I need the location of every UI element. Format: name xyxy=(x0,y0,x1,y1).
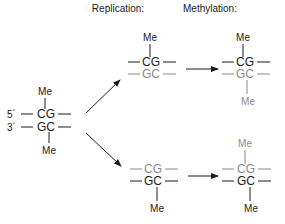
parent-top-strand: CG xyxy=(37,107,55,121)
dna-methylation-diagram: Replication: Methylation: Me 5´ 3´ CG GC… xyxy=(0,0,285,224)
methyl-bottom: Me xyxy=(241,96,255,107)
bottom-strand: GC xyxy=(144,174,162,188)
parent-methyl-bottom: Me xyxy=(42,145,56,156)
upper-methylated-duplex: Me CG GC Me xyxy=(222,32,270,107)
lower-methylated-duplex: Me CG GC Me xyxy=(222,138,271,214)
methyl-top: Me xyxy=(143,32,157,43)
methylation-header: Methylation: xyxy=(183,3,237,14)
arrow-down-right-icon xyxy=(86,133,121,166)
methyl-bottom: Me xyxy=(244,203,258,214)
bottom-strand: GC xyxy=(236,67,254,81)
five-prime-label: 5´ xyxy=(7,109,16,120)
bottom-strand: GC xyxy=(142,67,160,81)
methyl-top: Me xyxy=(238,138,252,149)
lower-replicated-duplex: CG GC Me xyxy=(130,162,178,214)
parent-bottom-strand: GC xyxy=(37,120,55,134)
three-prime-label: 3´ xyxy=(7,122,16,133)
replication-header: Replication: xyxy=(92,3,144,14)
parent-methyl-top: Me xyxy=(38,86,52,97)
parent-duplex: Me 5´ 3´ CG GC Me xyxy=(7,86,71,156)
arrow-up-right-icon xyxy=(86,80,120,113)
methyl-bottom: Me xyxy=(150,203,164,214)
upper-replicated-duplex: Me CG GC xyxy=(128,32,176,81)
bottom-strand: GC xyxy=(237,174,255,188)
methyl-top: Me xyxy=(236,32,250,43)
